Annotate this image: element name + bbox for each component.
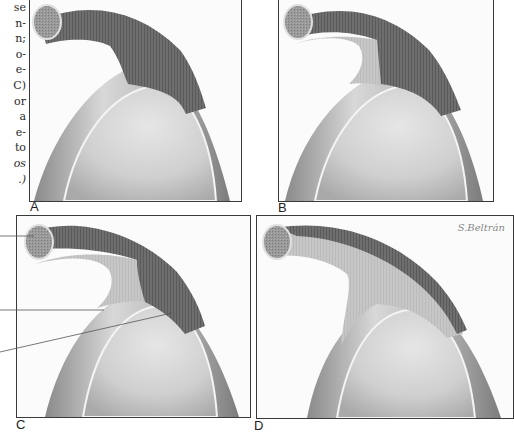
tendon-bone-illustration-c: [17, 216, 250, 417]
panel-label-d: D: [254, 418, 263, 432]
caption-line: .): [0, 172, 26, 188]
panel-label-b: B: [278, 200, 287, 215]
caption-line: to: [0, 140, 26, 156]
caption-line: n;: [0, 31, 26, 47]
panel-label-c: C: [16, 417, 25, 432]
caption-fragment-column: se n- n; o- e- C) or a e- to os .): [0, 0, 26, 187]
caption-line: n-: [0, 16, 26, 32]
caption-line: a: [0, 109, 26, 125]
caption-line: C): [0, 78, 26, 94]
panel-b: [278, 0, 494, 202]
caption-line: os: [0, 156, 26, 172]
panel-a: [29, 0, 242, 202]
tendon-bone-illustration-a: [30, 0, 241, 201]
panel-c: [16, 215, 251, 418]
tendon-bone-illustration-d: [257, 216, 513, 418]
tendon-bone-illustration-b: [279, 0, 493, 201]
caption-line: e-: [0, 125, 26, 141]
caption-line: se: [0, 0, 26, 16]
artist-signature: S.Beltrán: [458, 222, 505, 233]
caption-line: o-: [0, 47, 26, 63]
panel-label-a: A: [30, 199, 39, 214]
caption-line: or: [0, 94, 26, 110]
caption-line: e-: [0, 62, 26, 78]
panel-d: S.Beltrán: [256, 215, 514, 419]
